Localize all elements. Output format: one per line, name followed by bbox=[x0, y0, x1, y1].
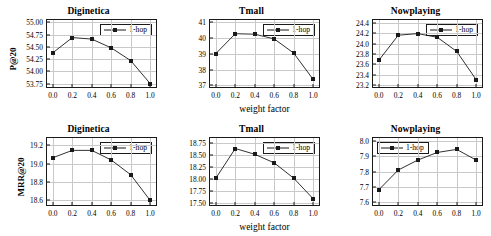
data-point-marker bbox=[51, 156, 55, 160]
y-tick-label: 54.50 bbox=[26, 42, 43, 51]
x-tick-label: 0.2 bbox=[231, 91, 240, 100]
x-tick-label: 1.0 bbox=[309, 209, 318, 218]
x-tick-label: 0.6 bbox=[270, 91, 279, 100]
data-point-marker bbox=[233, 32, 237, 36]
y-tick-label: 38 bbox=[199, 65, 206, 74]
y-tick-label: 7.9 bbox=[360, 152, 369, 161]
data-point-marker bbox=[377, 58, 381, 62]
data-point-marker bbox=[416, 32, 420, 36]
y-tick-label: 7.8 bbox=[360, 167, 369, 176]
y-tick-label: 18.8 bbox=[30, 178, 43, 187]
panel-p20-nowplaying: Nowplaying 1-hop 23.223.423.623.824.024.… bbox=[326, 0, 491, 118]
x-tick-label: 0.2 bbox=[231, 209, 240, 218]
data-point-marker bbox=[435, 150, 439, 154]
x-tick-label: 1.0 bbox=[309, 91, 318, 100]
x-axis-label: weight factor bbox=[209, 104, 320, 114]
panel-mrr20-nowplaying: Nowplaying 1-hop 7.67.77.87.98.00.00.20.… bbox=[326, 118, 491, 236]
data-point-marker bbox=[70, 148, 74, 152]
data-point-marker bbox=[311, 77, 315, 81]
x-tick-label: 1.0 bbox=[472, 209, 481, 218]
plot-area: 1-hop 23.223.423.623.824.024.224.40.00.2… bbox=[372, 19, 483, 88]
y-tick-label: 23.6 bbox=[356, 60, 369, 69]
panel-title: Diginetica bbox=[0, 6, 163, 16]
y-axis-label: MRR@20 bbox=[16, 158, 26, 197]
plot-area: 1-hop 37383940410.00.20.40.60.81.0 bbox=[209, 19, 320, 88]
x-tick-label: 0.0 bbox=[211, 91, 220, 100]
panel-title: Nowplaying bbox=[326, 124, 491, 134]
data-point-marker bbox=[253, 32, 257, 36]
x-tick-label: 0.2 bbox=[394, 209, 403, 218]
data-point-marker bbox=[474, 158, 478, 162]
y-tick-label: 19.2 bbox=[30, 141, 43, 150]
data-point-marker bbox=[214, 176, 218, 180]
data-point-marker bbox=[455, 49, 459, 53]
data-point-marker bbox=[51, 51, 55, 55]
y-tick-label: 8.0 bbox=[360, 137, 369, 146]
x-tick-label: 0.8 bbox=[452, 209, 461, 218]
x-tick-label: 0.4 bbox=[413, 209, 422, 218]
y-tick-label: 54.75 bbox=[26, 30, 43, 39]
x-tick-label: 0.4 bbox=[250, 209, 259, 218]
data-point-marker bbox=[129, 59, 133, 63]
x-tick-label: 0.0 bbox=[48, 209, 57, 218]
y-tick-label: 24.2 bbox=[356, 29, 369, 38]
x-tick-label: 0.4 bbox=[87, 91, 96, 100]
data-point-marker bbox=[148, 82, 152, 86]
x-tick-label: 0.6 bbox=[433, 91, 442, 100]
x-tick-label: 0.2 bbox=[394, 91, 403, 100]
plot-area: 1-hop 7.67.77.87.98.00.00.20.40.60.81.0 bbox=[372, 137, 483, 206]
data-series-line bbox=[210, 20, 319, 87]
y-tick-label: 17.50 bbox=[189, 198, 206, 207]
data-point-marker bbox=[90, 148, 94, 152]
x-tick-label: 0.0 bbox=[374, 91, 383, 100]
y-tick-label: 54.25 bbox=[26, 55, 43, 64]
x-tick-label: 0.4 bbox=[87, 209, 96, 218]
x-tick-label: 0.4 bbox=[413, 91, 422, 100]
data-point-marker bbox=[109, 158, 113, 162]
plot-area: 1-hop 18.618.819.019.20.00.20.40.60.81.0 bbox=[46, 137, 157, 206]
data-point-marker bbox=[70, 36, 74, 40]
x-tick-label: 0.8 bbox=[126, 209, 135, 218]
x-tick-label: 0.2 bbox=[68, 209, 77, 218]
panel-title: Diginetica bbox=[0, 124, 163, 134]
y-tick-label: 18.6 bbox=[30, 196, 43, 205]
x-tick-label: 0.6 bbox=[107, 209, 116, 218]
x-tick-label: 0.2 bbox=[68, 91, 77, 100]
y-tick-label: 23.2 bbox=[356, 81, 369, 90]
y-tick-label: 23.8 bbox=[356, 50, 369, 59]
y-tick-label: 19.0 bbox=[30, 159, 43, 168]
data-point-marker bbox=[292, 176, 296, 180]
data-point-marker bbox=[377, 188, 381, 192]
data-point-marker bbox=[148, 198, 152, 202]
panel-p20-diginetica: Diginetica P@20 1-hop 53.7554.0054.2554.… bbox=[0, 0, 163, 118]
panel-p20-tmall: Tmall 1-hop 37383940410.00.20.40.60.81.0… bbox=[163, 0, 326, 118]
x-tick-label: 0.4 bbox=[250, 91, 259, 100]
x-tick-label: 0.6 bbox=[433, 209, 442, 218]
y-axis-label: P@20 bbox=[8, 48, 18, 71]
figure-grid: Diginetica P@20 1-hop 53.7554.0054.2554.… bbox=[0, 0, 491, 236]
x-tick-label: 0.8 bbox=[289, 91, 298, 100]
y-tick-label: 53.75 bbox=[26, 79, 43, 88]
y-tick-label: 39 bbox=[199, 49, 206, 58]
data-point-marker bbox=[90, 37, 94, 41]
y-tick-label: 7.7 bbox=[360, 182, 369, 191]
y-tick-label: 18.00 bbox=[189, 174, 206, 183]
y-tick-label: 18.50 bbox=[189, 150, 206, 159]
y-tick-label: 55.00 bbox=[26, 18, 43, 27]
data-point-marker bbox=[396, 168, 400, 172]
data-point-marker bbox=[129, 173, 133, 177]
data-point-marker bbox=[233, 147, 237, 151]
x-tick-label: 0.8 bbox=[289, 209, 298, 218]
y-tick-label: 24.0 bbox=[356, 39, 369, 48]
x-tick-label: 0.0 bbox=[48, 91, 57, 100]
panel-title: Tmall bbox=[163, 124, 326, 134]
panel-mrr20-tmall: Tmall 1-hop 17.5017.7518.0018.2518.5018.… bbox=[163, 118, 326, 236]
data-point-marker bbox=[272, 37, 276, 41]
x-tick-label: 0.0 bbox=[211, 209, 220, 218]
y-tick-label: 37 bbox=[199, 81, 206, 90]
data-series-line bbox=[47, 20, 156, 87]
y-tick-label: 17.75 bbox=[189, 186, 206, 195]
data-point-marker bbox=[272, 161, 276, 165]
data-series-line bbox=[373, 20, 482, 87]
x-axis-label: weight factor bbox=[209, 222, 320, 232]
